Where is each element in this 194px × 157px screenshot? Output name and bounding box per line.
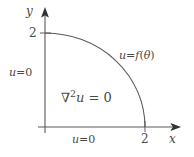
nabla-icon: ∇: [61, 90, 70, 105]
left-bc-value: 0: [25, 66, 32, 79]
arc-boundary-condition-label: u=f(θ): [119, 50, 155, 61]
pde-operator: =: [89, 90, 100, 105]
bottom-bc-operator: =: [79, 133, 88, 146]
pde-variable: u: [76, 90, 84, 105]
y-axis-arrowhead: [41, 7, 49, 18]
x-axis-label: x: [169, 133, 176, 145]
arc-bc-paren-close: ): [150, 49, 154, 62]
arc-bc-operator: =: [126, 49, 135, 62]
x-axis-tick-label-2: 2: [141, 133, 149, 145]
y-axis-tick-label-2: 2: [29, 27, 37, 39]
pde-value: 0: [104, 90, 112, 105]
quarter-circle-arc: [45, 33, 145, 127]
y-axis-label: y: [26, 5, 33, 17]
bottom-boundary-condition-label: u=0: [72, 134, 95, 145]
left-bc-operator: =: [16, 66, 25, 79]
laplace-equation-label: ∇2u = 0: [61, 89, 112, 104]
laplace-quarter-disk-figure: y x 2 2 u=0 u=0 u=f(θ) ∇2u = 0: [0, 0, 194, 157]
bottom-bc-value: 0: [88, 133, 95, 146]
x-axis-arrowhead: [171, 123, 182, 131]
left-boundary-condition-label: u=0: [9, 67, 32, 78]
